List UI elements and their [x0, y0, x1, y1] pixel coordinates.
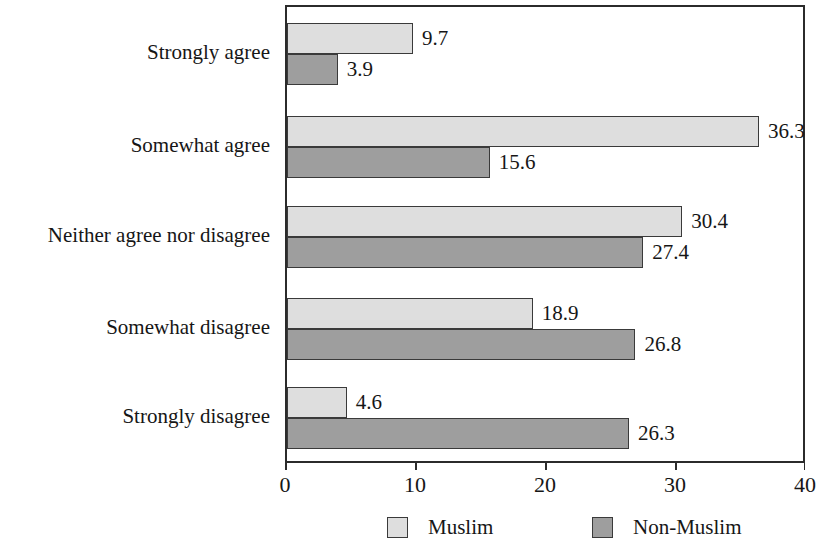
category-label: Strongly disagree — [0, 406, 270, 427]
bar-value-label: 18.9 — [542, 303, 579, 324]
bar-non-muslim — [287, 147, 490, 178]
x-axis-tick — [675, 461, 677, 470]
category-label: Neither agree nor disagree — [0, 225, 270, 246]
x-axis-tick-label: 20 — [534, 474, 556, 496]
legend-item-nonmuslim[interactable]: Non-Muslim — [592, 512, 742, 542]
bar-non-muslim — [287, 418, 629, 449]
bar-non-muslim — [287, 54, 338, 85]
bar-value-label: 15.6 — [499, 152, 536, 173]
x-axis-tick-label: 10 — [404, 474, 426, 496]
x-axis-tick — [804, 461, 806, 470]
bar-value-label: 9.7 — [422, 28, 448, 49]
x-axis-tick — [545, 461, 547, 470]
legend-label: Muslim — [428, 517, 493, 538]
x-axis-tick-label: 0 — [280, 474, 291, 496]
bar-value-label: 27.4 — [652, 242, 689, 263]
legend-item-muslim[interactable]: Muslim — [387, 512, 493, 542]
plot-area: 9.73.936.315.630.427.418.926.84.626.3 — [285, 5, 805, 463]
bar-value-label: 26.3 — [638, 423, 675, 444]
category-label: Somewhat disagree — [0, 317, 270, 338]
x-axis-tick — [285, 461, 287, 470]
bar-muslim — [287, 116, 759, 147]
x-axis-tick — [415, 461, 417, 470]
bar-non-muslim — [287, 329, 635, 360]
legend-label: Non-Muslim — [633, 517, 742, 538]
chart-legend: MuslimNon-Muslim — [0, 512, 809, 549]
bar-non-muslim — [287, 237, 643, 268]
x-axis: 010203040 — [285, 461, 805, 463]
category-label: Strongly agree — [0, 42, 270, 63]
bar-muslim — [287, 298, 533, 329]
bar-value-label: 4.6 — [356, 392, 382, 413]
category-label: Somewhat agree — [0, 135, 270, 156]
bar-value-label: 36.3 — [768, 121, 805, 142]
bar-muslim — [287, 387, 347, 418]
bar-value-label: 26.8 — [644, 334, 681, 355]
bar-value-label: 3.9 — [347, 59, 373, 80]
x-axis-tick-label: 40 — [794, 474, 816, 496]
legend-swatch-icon — [387, 517, 408, 538]
legend-swatch-icon — [592, 517, 613, 538]
bar-value-label: 30.4 — [691, 211, 728, 232]
category-axis-labels: Strongly agreeSomewhat agreeNeither agre… — [0, 0, 278, 463]
bar-muslim — [287, 23, 413, 54]
x-axis-tick-label: 30 — [664, 474, 686, 496]
bar-muslim — [287, 206, 682, 237]
